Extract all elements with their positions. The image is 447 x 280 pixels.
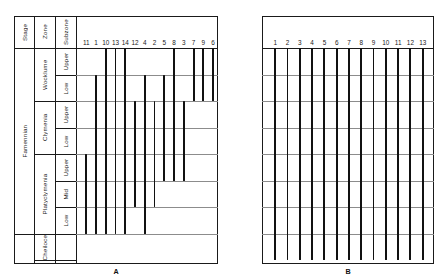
zone-name-clymenia: Clymenia bbox=[34, 101, 55, 154]
column-number-b-10: 10 bbox=[382, 39, 389, 46]
panel-a-gridline-2 bbox=[76, 101, 218, 102]
subzone-cell-platyclymenia-mid: Mid bbox=[55, 181, 76, 208]
zone-name-cheiloce: Cheiloce bbox=[34, 234, 55, 261]
column-number-b-7: 7 bbox=[347, 39, 351, 46]
panel-a-gridline-3 bbox=[76, 128, 218, 129]
range-bar-b-6 bbox=[336, 48, 338, 260]
subzone-cell-platyclymenia-low: Low bbox=[55, 207, 76, 234]
zone-cell-wocklume: Wocklume bbox=[34, 48, 55, 101]
column-number-a-8: 8 bbox=[172, 39, 176, 46]
column-number-b-2: 2 bbox=[286, 39, 290, 46]
column-number-a-2: 2 bbox=[153, 39, 157, 46]
range-bar-a-5 bbox=[163, 75, 165, 181]
header-subzone-label: Subzone bbox=[55, 16, 76, 48]
column-number-b-3: 3 bbox=[298, 39, 302, 46]
column-number-a-4: 4 bbox=[143, 39, 147, 46]
subzone-name: Low bbox=[55, 207, 76, 234]
subzone-cell-platyclymenia-upper: Upper bbox=[55, 154, 76, 181]
column-number-b-5: 5 bbox=[323, 39, 327, 46]
panel-a-caption: A bbox=[113, 267, 118, 276]
subzone-cell-clymenia-low: Low bbox=[55, 128, 76, 155]
subzone-name: Upper bbox=[55, 48, 76, 75]
subzone-cell-wocklume-upper: Upper bbox=[55, 48, 76, 75]
range-bar-b-4 bbox=[311, 48, 313, 260]
column-number-a-3: 3 bbox=[182, 39, 186, 46]
subzone-name: Low bbox=[55, 75, 76, 102]
zone-cell-cheiloce: Cheiloce bbox=[34, 234, 55, 261]
subzone-name: Low bbox=[55, 128, 76, 155]
column-number-a-12: 12 bbox=[132, 39, 139, 46]
range-bar-b-3 bbox=[299, 48, 301, 260]
range-bar-a-12 bbox=[134, 101, 136, 207]
range-bar-a-10 bbox=[105, 48, 107, 234]
range-bar-a-1 bbox=[95, 75, 97, 234]
zone-cell-clymenia: Clymenia bbox=[34, 101, 55, 154]
panel-a-gridline-4 bbox=[76, 154, 218, 155]
range-bar-b-8 bbox=[360, 48, 362, 260]
column-number-a-7: 7 bbox=[192, 39, 196, 46]
panel-a-gridline-7 bbox=[76, 234, 218, 235]
range-bar-a-9 bbox=[202, 48, 204, 101]
zone-divider-3 bbox=[34, 260, 76, 261]
range-bar-a-3 bbox=[183, 101, 185, 181]
panel-a-gridline-6 bbox=[76, 207, 218, 208]
header-zone: Zone bbox=[34, 16, 55, 48]
column-number-b-13: 13 bbox=[419, 39, 426, 46]
range-bar-b-11 bbox=[397, 48, 399, 260]
subzone-cell-clymenia-upper: Upper bbox=[55, 101, 76, 128]
stage-bottom-rule bbox=[14, 234, 34, 235]
subzone-name: Mid bbox=[55, 181, 76, 208]
panel-a-column-divider-2 bbox=[76, 16, 77, 264]
range-bar-a-11 bbox=[85, 154, 87, 234]
column-number-b-12: 12 bbox=[407, 39, 414, 46]
column-number-a-11: 11 bbox=[83, 39, 90, 46]
column-number-a-5: 5 bbox=[163, 39, 167, 46]
column-number-b-4: 4 bbox=[310, 39, 314, 46]
stage-name: Famennian bbox=[14, 48, 34, 234]
range-bar-b-13 bbox=[422, 48, 424, 260]
column-number-a-10: 10 bbox=[102, 39, 109, 46]
range-bar-b-1 bbox=[274, 48, 276, 260]
range-bar-a-8 bbox=[173, 48, 175, 181]
subzone-cell-wocklume-low: Low bbox=[55, 75, 76, 102]
figure-canvas: StageZoneSubzoneFamennianWocklumeUpperLo… bbox=[0, 0, 447, 280]
header-subzone: Subzone bbox=[55, 16, 76, 48]
subzone-name: Upper bbox=[55, 154, 76, 181]
range-bar-a-7 bbox=[193, 48, 195, 101]
column-number-b-1: 1 bbox=[274, 39, 278, 46]
zone-cell-platyclymenia: Platyclymenia bbox=[34, 154, 55, 234]
range-bar-a-14 bbox=[124, 48, 126, 234]
column-number-a-6: 6 bbox=[211, 39, 215, 46]
subzone-name: Upper bbox=[55, 101, 76, 128]
header-stage: Stage bbox=[14, 16, 34, 48]
column-number-a-9: 9 bbox=[202, 39, 206, 46]
panel-a-gridline-1 bbox=[76, 75, 218, 76]
column-number-b-8: 8 bbox=[360, 39, 364, 46]
stage-cell-famennian: Famennian bbox=[14, 48, 34, 234]
header-zone-label: Zone bbox=[34, 16, 55, 48]
header-stage-label: Stage bbox=[14, 16, 34, 48]
range-bar-b-7 bbox=[348, 48, 350, 260]
panel-a-gridline-5 bbox=[76, 181, 218, 182]
zone-name-platyclymenia: Platyclymenia bbox=[34, 154, 55, 234]
column-number-a-13: 13 bbox=[112, 39, 119, 46]
zone-name-wocklume: Wocklume bbox=[34, 48, 55, 101]
range-bar-b-10 bbox=[385, 48, 387, 260]
column-number-b-6: 6 bbox=[335, 39, 339, 46]
column-number-b-9: 9 bbox=[372, 39, 376, 46]
column-number-a-1: 1 bbox=[94, 39, 98, 46]
range-bar-a-6 bbox=[212, 48, 214, 101]
column-number-a-14: 14 bbox=[122, 39, 129, 46]
range-bar-a-4 bbox=[144, 75, 146, 234]
column-number-b-11: 11 bbox=[395, 39, 402, 46]
panel-b-caption: B bbox=[345, 267, 350, 276]
